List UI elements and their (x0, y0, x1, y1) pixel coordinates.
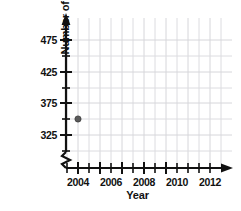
y-tick-label: 475 (40, 34, 57, 46)
x-tick-label: 2008 (133, 176, 156, 188)
y-tick-label: 425 (40, 66, 57, 78)
y-axis-title: Number of species (59, 0, 71, 55)
data-point[interactable] (75, 116, 81, 122)
x-axis-title-wrapper: Year (60, 189, 215, 201)
y-axis-title-wrapper: Number of species (58, 0, 72, 72)
x-tick-label: 2010 (166, 176, 189, 188)
x-tick-label: 2004 (67, 176, 90, 188)
x-tick-label: 2012 (199, 176, 222, 188)
data-point-group (75, 116, 81, 122)
x-tick-label: 2006 (100, 176, 123, 188)
scatter-plot: 475 425 375 325 2004 2006 (0, 0, 241, 211)
y-tick-label: 375 (40, 97, 57, 109)
y-tick-label: 325 (40, 129, 57, 141)
chart-container: 475 425 375 325 2004 2006 (0, 0, 241, 211)
x-axis-title: Year (126, 189, 148, 201)
